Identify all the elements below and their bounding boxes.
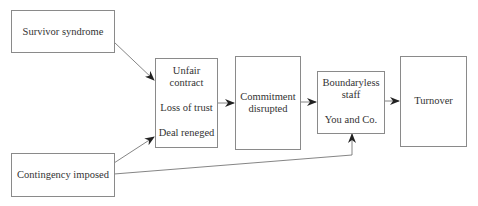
node-label: Survivor syndrome [23,26,104,38]
node-label: Turnover [414,95,453,107]
node-label-line: Boundaryless [322,77,379,89]
node-label-line: staff [342,89,360,101]
node-label-line: disrupted [248,103,287,115]
node-unfair-contract: Unfair contract Loss of trust Deal reneg… [155,58,218,148]
node-label-line: Commitment [240,91,295,103]
node-label-line: You and Co. [325,114,377,126]
node-label-line: Deal reneged [159,127,215,139]
node-label: Contingency imposed [17,169,109,181]
node-commitment-disrupted: Commitment disrupted [235,56,301,150]
node-contingency-imposed: Contingency imposed [11,153,115,197]
node-survivor-syndrome: Survivor syndrome [11,10,115,53]
arrow-contingency-to-unfair [114,137,154,163]
node-turnover: Turnover [400,56,467,147]
node-label-line: contract [170,77,204,89]
node-boundaryless-staff: Boundaryless staff You and Co. [317,71,385,134]
node-label-line: Loss of trust [160,102,213,114]
node-label-line: Unfair [173,65,200,77]
arrow-survivor-to-unfair [114,42,154,80]
